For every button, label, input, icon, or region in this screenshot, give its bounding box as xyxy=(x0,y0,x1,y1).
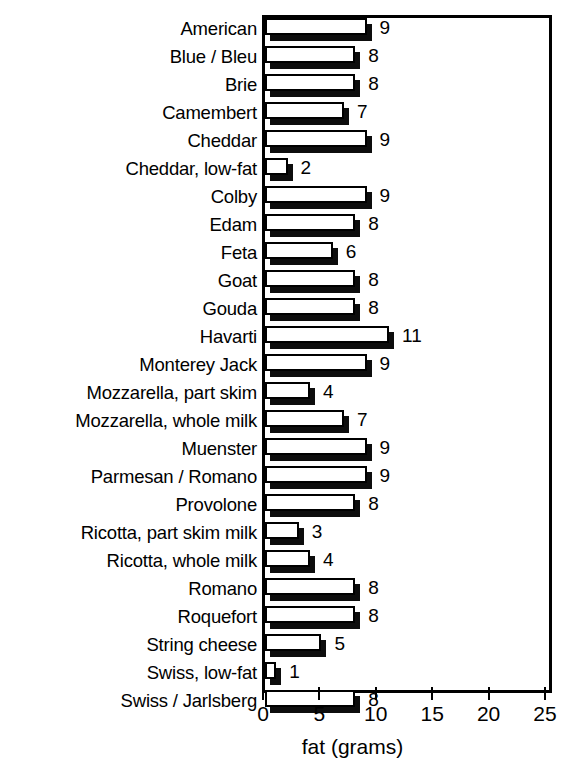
bar-face xyxy=(265,46,355,63)
x-axis: 0510152025 fat (grams) xyxy=(0,687,575,773)
bar-chart: American9Blue / Bleu8Brie8Camembert7Ched… xyxy=(0,0,575,773)
bar xyxy=(265,522,305,546)
category-label: Provolone xyxy=(175,491,257,519)
bar-row: Gouda8 xyxy=(0,295,575,323)
bar-face xyxy=(265,606,355,623)
bar xyxy=(265,214,361,238)
bar-row: Ricotta, part skim milk3 xyxy=(0,519,575,547)
category-label: Camembert xyxy=(162,99,257,127)
x-tick xyxy=(544,687,546,700)
bar-row: Mozzarella, whole milk7 xyxy=(0,407,575,435)
bar-value-label: 8 xyxy=(368,73,379,95)
bar-row: Colby9 xyxy=(0,183,575,211)
bar xyxy=(265,606,361,630)
x-tick xyxy=(318,687,320,700)
bar-row: Muenster9 xyxy=(0,435,575,463)
x-tick xyxy=(488,687,490,700)
category-label: American xyxy=(180,15,257,43)
category-label: Colby xyxy=(211,183,257,211)
bar-value-label: 8 xyxy=(368,213,379,235)
category-label: Havarti xyxy=(200,323,257,351)
bar-face xyxy=(265,494,355,511)
bar-value-label: 8 xyxy=(368,577,379,599)
bar-value-label: 9 xyxy=(380,465,391,487)
bar-row: American9 xyxy=(0,15,575,43)
bar-row: Edam8 xyxy=(0,211,575,239)
bar-row: Cheddar, low-fat2 xyxy=(0,155,575,183)
bar-face xyxy=(265,662,276,679)
bar-row: Havarti11 xyxy=(0,323,575,351)
bar-face xyxy=(265,354,367,371)
bar-row: Ricotta, whole milk4 xyxy=(0,547,575,575)
category-label: String cheese xyxy=(146,631,257,659)
category-label: Monterey Jack xyxy=(139,351,257,379)
bar-value-label: 8 xyxy=(368,493,379,515)
bar-row: Feta6 xyxy=(0,239,575,267)
bar-face xyxy=(265,634,321,651)
bar-face xyxy=(265,382,310,399)
bar-rows: American9Blue / Bleu8Brie8Camembert7Ched… xyxy=(0,15,575,687)
bar xyxy=(265,102,350,126)
bar-face xyxy=(265,326,389,343)
bar xyxy=(265,410,350,434)
bar-face xyxy=(265,550,310,567)
x-axis-title-text: fat (grams) xyxy=(302,735,404,759)
bar-row: Cheddar9 xyxy=(0,127,575,155)
bar xyxy=(265,662,282,686)
x-tick xyxy=(375,687,377,700)
bar xyxy=(265,578,361,602)
category-label: Parmesan / Romano xyxy=(91,463,257,491)
bar-face xyxy=(265,270,355,287)
bar-value-label: 6 xyxy=(346,241,357,263)
x-axis-title: fat (grams) xyxy=(0,735,575,759)
bar-value-label: 8 xyxy=(368,269,379,291)
bar-value-label: 9 xyxy=(380,185,391,207)
bar-value-label: 11 xyxy=(402,325,422,347)
category-label: Ricotta, whole milk xyxy=(107,547,257,575)
bar-value-label: 9 xyxy=(380,437,391,459)
bar xyxy=(265,326,395,350)
bar-face xyxy=(265,186,367,203)
bar-row: Mozzarella, part skim4 xyxy=(0,379,575,407)
bar-face xyxy=(265,298,355,315)
bar-value-label: 5 xyxy=(334,633,345,655)
category-label: Ricotta, part skim milk xyxy=(81,519,257,547)
bar xyxy=(265,466,373,490)
bar-row: Monterey Jack9 xyxy=(0,351,575,379)
bar-row: Provolone8 xyxy=(0,491,575,519)
bar-face xyxy=(265,214,355,231)
bar-row: Swiss, low-fat1 xyxy=(0,659,575,687)
category-label: Gouda xyxy=(202,295,257,323)
category-label: Brie xyxy=(225,71,257,99)
bar-value-label: 1 xyxy=(289,661,300,683)
bar-value-label: 9 xyxy=(380,17,391,39)
category-label: Cheddar xyxy=(187,127,257,155)
bar-face xyxy=(265,74,355,91)
bar-face xyxy=(265,158,288,175)
bar xyxy=(265,298,361,322)
bar-value-label: 7 xyxy=(357,409,368,431)
bar-face xyxy=(265,130,367,147)
category-label: Roquefort xyxy=(178,603,257,631)
category-label: Edam xyxy=(209,211,257,239)
category-label: Cheddar, low-fat xyxy=(125,155,257,183)
bar-row: Parmesan / Romano9 xyxy=(0,463,575,491)
bar-row: Goat8 xyxy=(0,267,575,295)
bar-value-label: 8 xyxy=(368,45,379,67)
bar-value-label: 8 xyxy=(368,297,379,319)
bar-row: Brie8 xyxy=(0,71,575,99)
x-tick-label: 20 xyxy=(459,702,519,726)
category-label: Feta xyxy=(221,239,257,267)
category-label: Muenster xyxy=(181,435,257,463)
category-label: Goat xyxy=(218,267,257,295)
bar xyxy=(265,270,361,294)
x-tick-label: 0 xyxy=(233,702,293,726)
bar-value-label: 8 xyxy=(368,605,379,627)
bar-value-label: 9 xyxy=(380,353,391,375)
bar xyxy=(265,354,373,378)
bar-row: Romano8 xyxy=(0,575,575,603)
bar-value-label: 4 xyxy=(323,549,334,571)
x-tick-label: 5 xyxy=(289,702,349,726)
bar-face xyxy=(265,438,367,455)
bar-value-label: 2 xyxy=(301,157,312,179)
